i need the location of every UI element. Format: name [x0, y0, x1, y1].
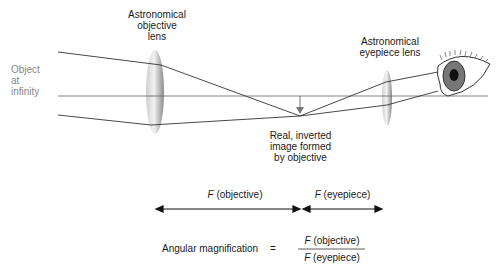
- objective-lens: [146, 50, 164, 134]
- formula-equals: =: [270, 243, 276, 254]
- objective-focal-label: F (objective): [190, 189, 280, 200]
- objective-focal-arrow: [156, 206, 300, 212]
- formula-denominator: F (eyepiece): [298, 252, 366, 263]
- eyepiece-lens: [382, 70, 392, 126]
- formula-lhs: Angular magnification: [162, 243, 258, 254]
- formula-numerator: F (objective): [298, 235, 366, 246]
- eye-icon: [437, 50, 490, 96]
- eyepiece-focal-arrow: [303, 206, 382, 212]
- objective-lens-label: Astronomicalobjectivelens: [112, 9, 202, 42]
- upper-ray: [58, 52, 438, 116]
- eyepiece-focal-label: F (eyepiece): [305, 189, 380, 200]
- eyepiece-lens-label: Astronomicaleyepiece lens: [350, 36, 430, 58]
- object-label: Objectatinfinity: [11, 64, 40, 97]
- image-label: Real, invertedimage formedby objective: [258, 130, 343, 163]
